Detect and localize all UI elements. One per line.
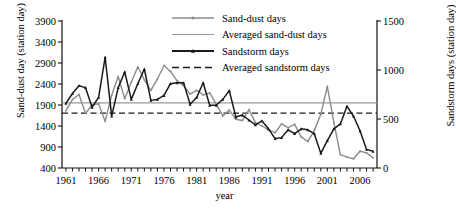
data-point (228, 89, 231, 92)
data-point (196, 89, 198, 91)
y-tick-label-right: 0 (383, 163, 388, 174)
y-tick-label-left: 900 (40, 142, 56, 153)
data-point (255, 122, 257, 124)
legend-marker-circle (191, 16, 194, 19)
data-point (65, 110, 67, 112)
data-point (228, 109, 230, 111)
legend-label: Sandstorm days (222, 46, 289, 57)
data-point (372, 157, 374, 159)
data-point (346, 156, 348, 158)
y-tick-label-left: 400 (40, 163, 56, 174)
chart-legend: Sand-dust daysAveraged sand-dust daysSan… (172, 13, 330, 74)
x-tick-label: 1976 (153, 175, 174, 186)
data-point (340, 154, 342, 156)
data-point (189, 93, 191, 95)
data-point (366, 152, 368, 154)
y-tick-label-right: 500 (383, 114, 399, 125)
data-point (359, 150, 361, 152)
data-point (137, 66, 139, 68)
data-point (307, 141, 309, 143)
data-point (72, 99, 74, 101)
data-point (157, 78, 159, 80)
x-tick-label: 1986 (219, 175, 240, 186)
x-axis-title: year (0, 190, 449, 201)
data-point (261, 125, 263, 127)
data-point (281, 123, 283, 125)
x-tick-label: 2001 (317, 175, 338, 186)
data-point (78, 94, 80, 96)
data-point (209, 92, 211, 94)
y-tick-label-right: 1500 (383, 16, 404, 27)
data-point (353, 158, 355, 160)
y-tick-label-right: 1000 (383, 65, 404, 76)
data-point (202, 81, 205, 84)
y-tick-label-left: 2400 (35, 79, 56, 90)
data-point (163, 65, 165, 67)
data-point (326, 86, 328, 88)
y-tick-label-left: 1400 (35, 121, 56, 132)
x-tick-label: 2006 (350, 175, 371, 186)
y-axis-left-title: Sand-dust day (station day) (15, 0, 26, 141)
axes (58, 20, 381, 172)
data-point (111, 94, 113, 96)
data-point (150, 89, 152, 91)
data-point (110, 114, 113, 117)
y-tick-label-left: 2900 (35, 58, 56, 69)
data-point (333, 122, 335, 124)
data-point (98, 103, 100, 105)
x-tick-label: 1961 (55, 175, 76, 186)
data-point (104, 56, 107, 59)
x-tick-label: 1966 (88, 175, 109, 186)
data-point (170, 71, 172, 73)
data-point (313, 130, 315, 132)
data-point (97, 96, 100, 99)
data-point (300, 136, 302, 138)
data-point (235, 118, 237, 120)
legend-label: Sand-dust days (222, 13, 286, 24)
data-point (241, 120, 243, 122)
data-point (274, 132, 276, 134)
data-point (124, 98, 126, 100)
data-point (123, 70, 126, 73)
data-point (104, 120, 106, 122)
legend-label: Averaged sandstorm days (222, 62, 330, 73)
y-axis-right-title: Sandstorm days (station day) (445, 0, 456, 146)
data-point (202, 94, 204, 96)
legend-label: Averaged sand-dust days (222, 29, 327, 40)
data-point (85, 113, 87, 115)
data-point (222, 115, 224, 117)
x-tick-label: 1996 (284, 175, 305, 186)
y-tick-label-left: 1900 (35, 100, 56, 111)
x-tick-label: 1981 (186, 175, 207, 186)
data-point (248, 109, 250, 111)
data-point (345, 105, 348, 108)
data-point (143, 79, 145, 81)
data-point (143, 67, 146, 70)
data-point (320, 113, 322, 115)
x-tick-label: 1991 (251, 175, 272, 186)
data-point (117, 76, 119, 78)
data-point (294, 123, 296, 125)
data-point (130, 81, 132, 83)
y-tick-label-left: 3400 (35, 37, 56, 48)
y-tick-label-left: 3900 (35, 16, 56, 27)
x-tick-label: 1971 (121, 175, 142, 186)
